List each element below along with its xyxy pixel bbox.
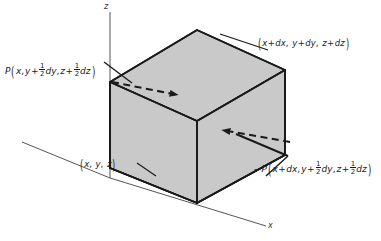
fraction-half-dy: 12 (316, 160, 321, 175)
diagram-canvas: z x (x, y, z) (x+dx, y+dy, z+dz) P(x,y+1… (0, 0, 381, 241)
left-arg3-diff: dz (80, 66, 90, 76)
sep-2: , (101, 159, 105, 169)
right-arg3-op: + (341, 164, 350, 174)
far-z-diff: dz (335, 38, 345, 48)
cube-diagram-svg (0, 0, 381, 241)
right-arg2-var: y (301, 164, 306, 174)
paren-open: ( (11, 66, 14, 80)
right-arg1-diff: dx (286, 164, 297, 174)
pressure-symbol-right: P (262, 164, 267, 174)
far-y-diff: dy (305, 38, 315, 48)
force-label-right: −P(x+dx,y+12dy,z+12dz) (253, 160, 372, 178)
paren-close: ) (346, 38, 349, 51)
corner-label-far: (x+dx, y+dy, z+dz) (257, 38, 350, 51)
paren-close: ) (112, 159, 115, 172)
corner-label-near-origin: (x, y, z) (79, 159, 117, 172)
sep-1: , (286, 38, 290, 48)
paren-open: ( (80, 159, 83, 172)
far-z-var: z (322, 38, 326, 48)
right-arg3-diff: dz (356, 164, 366, 174)
sep-1: , (89, 159, 93, 169)
left-arg3-op: + (65, 66, 74, 76)
fraction-half-dz: 12 (350, 160, 355, 175)
frac-denominator: 2 (316, 168, 321, 175)
force-label-left: P(x,y+12dy,z+12dz) (5, 62, 96, 80)
paren-open: ( (268, 164, 271, 178)
paren-close: ) (368, 164, 371, 178)
frac-denominator: 2 (74, 70, 79, 77)
sep-2: , (316, 38, 320, 48)
coord-y: y (96, 159, 101, 169)
frac-denominator: 2 (350, 168, 355, 175)
minus-sign-right: − (253, 164, 262, 174)
x-axis-label: x (268, 222, 273, 230)
right-arg2-diff: dy (322, 164, 333, 174)
far-x-diff: dx (275, 38, 285, 48)
paren-close: ) (92, 66, 95, 80)
right-arg2-op: + (307, 164, 316, 174)
left-arg2-diff: dy (45, 66, 56, 76)
far-z-op: + (327, 38, 335, 48)
left-arg2-op: + (30, 66, 39, 76)
paren-open: ( (258, 38, 261, 51)
fraction-half-dz: 12 (74, 62, 79, 77)
z-axis-label: z (104, 3, 108, 11)
coord-z: z (107, 159, 111, 169)
right-arg1-var: x (272, 164, 277, 174)
pressure-symbol-left: P (5, 66, 10, 76)
